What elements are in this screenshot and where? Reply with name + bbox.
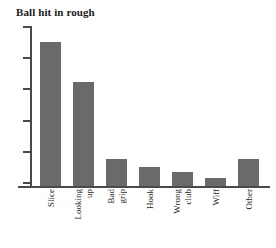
x-axis-label-line: Other	[244, 189, 254, 210]
x-axis-label: Wrongclub	[166, 189, 199, 214]
bar[interactable]	[238, 159, 259, 186]
x-axis-label-slot: Other	[232, 189, 265, 247]
bar-slot	[199, 26, 232, 186]
y-axis-tick	[23, 151, 30, 153]
y-axis-tick	[23, 88, 30, 90]
x-axis-label: Lookingup	[67, 189, 100, 220]
x-axis-labels: SliceLookingupBadgripHookWrongclubWiffOt…	[30, 189, 268, 247]
y-axis-tick	[23, 120, 30, 122]
x-axis-label-slot: Lookingup	[67, 189, 100, 247]
x-axis-label-slot: Hook	[133, 189, 166, 247]
y-axis-tick	[23, 26, 30, 28]
x-axis-label-line: grip	[117, 189, 127, 204]
x-axis-label-slot: Badgrip	[100, 189, 133, 247]
x-axis-label-slot: Wiff	[199, 189, 232, 247]
x-axis-label-line: Hook	[145, 189, 155, 209]
x-axis-label-slot: Wrongclub	[166, 189, 199, 247]
x-axis-label-line: Slice	[46, 189, 56, 207]
x-axis-label-line: Bad	[106, 189, 116, 204]
plot-area	[30, 26, 268, 186]
y-axis-tick	[23, 182, 30, 184]
bar[interactable]	[106, 159, 127, 186]
bar[interactable]	[205, 178, 226, 186]
bar[interactable]	[73, 82, 94, 186]
bar-slot	[232, 26, 265, 186]
x-axis-label-slot: Slice	[34, 189, 67, 247]
bar[interactable]	[40, 42, 61, 186]
bar[interactable]	[172, 172, 193, 186]
chart-title: Ball hit in rough	[16, 6, 95, 18]
bars-layer	[30, 26, 268, 186]
x-axis-label: Wiff	[199, 189, 232, 205]
bar[interactable]	[139, 167, 160, 186]
y-axis-tick	[23, 57, 30, 59]
x-axis-label-line: Wiff	[211, 189, 221, 205]
bar-slot	[133, 26, 166, 186]
x-axis-label: Other	[232, 189, 265, 210]
bar-slot	[100, 26, 133, 186]
bar-chart: Ball hit in rough SliceLookingupBadgripH…	[0, 0, 276, 248]
x-axis-label-line: Wrong	[172, 189, 182, 214]
x-axis-label-line: club	[183, 189, 193, 205]
bar-slot	[34, 26, 67, 186]
x-axis-label: Slice	[34, 189, 67, 207]
x-axis-label-line: up	[84, 189, 94, 198]
x-axis-label: Hook	[133, 189, 166, 209]
x-axis-label-line: Looking	[73, 189, 83, 220]
bar-slot	[67, 26, 100, 186]
x-axis-line	[18, 186, 270, 188]
x-axis-label: Badgrip	[100, 189, 133, 204]
bar-slot	[166, 26, 199, 186]
